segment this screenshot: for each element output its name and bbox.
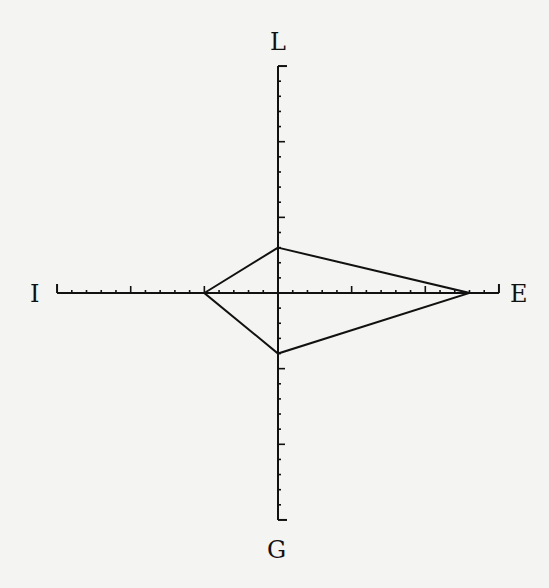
axis-label-bottom: G xyxy=(267,538,286,562)
diagram-canvas: L I E G xyxy=(0,0,549,588)
axis-label-top: L xyxy=(270,30,286,54)
axis-label-left: I xyxy=(30,282,39,306)
axis-label-right: E xyxy=(510,282,528,306)
kite-diagram xyxy=(0,0,549,588)
profile-polygon xyxy=(204,248,469,354)
